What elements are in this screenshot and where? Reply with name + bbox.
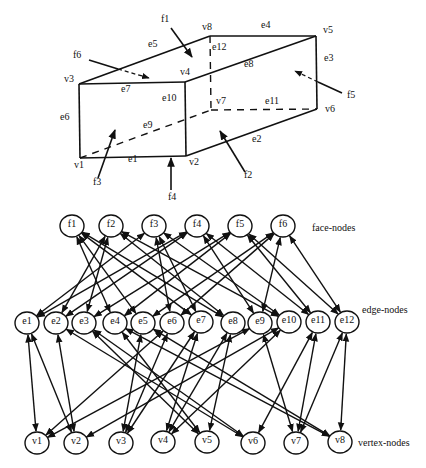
node-label: e3: [79, 315, 88, 326]
node-label: v1: [32, 435, 42, 446]
face-node-f4: f4: [185, 215, 209, 237]
link-f5-e4: [124, 233, 230, 315]
link-f6-e12: [290, 236, 341, 312]
link-e5-v8: [153, 329, 329, 436]
node-label: e10: [282, 314, 296, 325]
vertex-node-v6: v6: [241, 432, 265, 454]
link-e1-v1: [28, 335, 36, 431]
link-e2-v6: [66, 329, 243, 437]
face-node-f3: f3: [142, 215, 166, 237]
node-label: v7: [291, 435, 301, 446]
edge-node-e12: e12: [335, 311, 359, 333]
node-label: e2: [51, 315, 60, 326]
face-nodes-label: face-nodes: [312, 222, 355, 233]
link-e8-v4: [169, 333, 227, 431]
node-label: e9: [255, 315, 264, 326]
node-label: e8: [228, 315, 237, 326]
node-label: f3: [150, 218, 158, 229]
node-label: v6: [248, 435, 258, 446]
link-e12-v8: [341, 334, 347, 430]
node-label: e7: [196, 314, 205, 325]
edge-node-e6: e6: [160, 312, 184, 334]
edge-node-e10: e10: [277, 311, 301, 333]
edge-node-e3: e3: [72, 312, 96, 334]
node-label: e11: [311, 314, 325, 325]
vertex-node-v7: v7: [284, 432, 308, 454]
node-label: e4: [110, 315, 119, 326]
edge-node-e1: e1: [15, 312, 39, 334]
node-label: v5: [202, 434, 212, 445]
vertex-node-v5: v5: [195, 431, 219, 453]
node-label: e5: [138, 315, 147, 326]
node-label: f4: [193, 218, 201, 229]
edge-node-e9: e9: [248, 312, 272, 334]
vertex-node-v2: v2: [64, 432, 88, 454]
face-node-f1: f1: [60, 215, 84, 237]
link-f4-e1: [37, 232, 186, 317]
link-e10-v2: [86, 328, 278, 437]
link-e9-v7: [263, 334, 292, 431]
box-graph-figure: v1v2v3v4v5v6v8e1e2e3e4e5e6e7e8e9e10e11e1…: [0, 0, 426, 468]
face-edge-vertex-graph: f1f2f3f4f5f6e1e2e3e4e5e6e7e8e9e10e11e12v…: [0, 0, 426, 468]
link-e10-v4: [172, 330, 281, 433]
node-label: v2: [71, 435, 81, 446]
link-e4-v8: [126, 329, 330, 437]
edge-nodes-label: edge-nodes: [362, 304, 408, 315]
vertex-node-v4: v4: [151, 431, 175, 453]
link-e9-v1: [48, 329, 250, 438]
node-label: v3: [116, 435, 126, 446]
edge-node-e2: e2: [44, 312, 68, 334]
edge-node-e11: e11: [306, 311, 330, 333]
vertex-node-v1: v1: [25, 432, 49, 454]
node-label: e1: [22, 315, 31, 326]
node-label: f5: [236, 218, 244, 229]
edge-node-e7: e7: [189, 311, 213, 333]
node-label: f2: [107, 218, 115, 229]
link-f2-e2: [62, 236, 105, 312]
face-node-f2: f2: [99, 215, 123, 237]
node-label: v4: [158, 434, 168, 445]
edge-node-e8: e8: [221, 312, 245, 334]
edge-node-e4: e4: [103, 312, 127, 334]
vertex-nodes-label: vertex-nodes: [358, 437, 410, 448]
vertex-node-v3: v3: [109, 432, 133, 454]
edge-node-e5: e5: [131, 312, 155, 334]
node-label: f6: [279, 218, 287, 229]
face-node-f5: f5: [228, 215, 252, 237]
node-label: e12: [340, 314, 354, 325]
vertex-node-v8: v8: [328, 431, 352, 453]
node-label: f1: [68, 218, 76, 229]
link-f6-e6: [181, 234, 274, 315]
face-node-f6: f6: [271, 215, 295, 237]
node-label: e6: [167, 315, 176, 326]
node-label: v8: [335, 434, 345, 445]
